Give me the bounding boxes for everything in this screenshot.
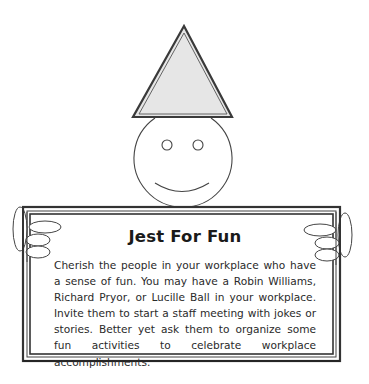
sign-body-text: Cherish the people in your workplace who… [54,257,316,370]
illustration: Jest For Fun Cherish the people in your … [0,0,369,384]
party-hat-icon [133,26,232,117]
smiley-face-icon [134,118,232,207]
sign-content: Jest For Fun Cherish the people in your … [54,226,316,370]
sign-title: Jest For Fun [54,226,316,248]
